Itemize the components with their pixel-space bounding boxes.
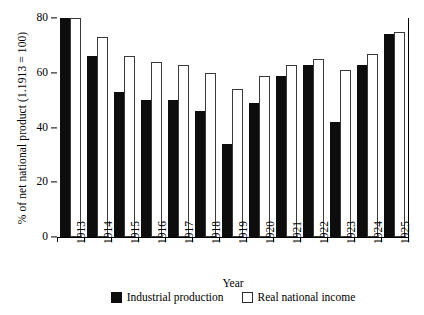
- y-axis-tick: [51, 17, 57, 18]
- bar-real-national-income: [367, 54, 378, 237]
- y-axis-tick: [51, 182, 57, 183]
- x-axis-tick-label: 1916: [157, 221, 169, 244]
- bar-real-national-income: [70, 18, 81, 237]
- bar-real-national-income: [286, 65, 297, 237]
- bar-group: [114, 18, 136, 237]
- x-axis-tick-label: 1913: [76, 221, 88, 244]
- bar-industrial-production: [141, 100, 152, 237]
- bar-industrial-production: [357, 65, 368, 237]
- bar-group: [357, 18, 379, 237]
- x-axis-title: Year: [57, 277, 409, 289]
- legend-swatch-outlined-square-icon: [242, 292, 253, 303]
- x-axis-tick-label: 1922: [319, 221, 331, 244]
- bar-group: [87, 18, 109, 237]
- legend-label: Industrial production: [127, 291, 224, 303]
- legend-label: Real national income: [258, 291, 356, 303]
- y-axis-tick-label: 40: [37, 122, 49, 134]
- bar-industrial-production: [276, 76, 287, 238]
- y-axis-tick-label: 0: [42, 231, 48, 243]
- bar-industrial-production: [222, 144, 233, 237]
- bar-industrial-production: [303, 65, 314, 237]
- bar-chart-figure: % of net national product (1.1913 = 100)…: [0, 0, 424, 315]
- bar-group: [330, 18, 352, 237]
- x-axis-tick: [57, 237, 58, 242]
- x-axis-tick-label: 1915: [130, 221, 142, 244]
- x-axis-tick-label: 1920: [265, 221, 277, 244]
- bar-group: [168, 18, 190, 237]
- bar-group: [249, 18, 271, 237]
- chart-legend: Industrial production Real national inco…: [57, 291, 409, 303]
- bar-real-national-income: [340, 70, 351, 237]
- bar-real-national-income: [151, 62, 162, 237]
- bar-industrial-production: [330, 122, 341, 237]
- bar-industrial-production: [249, 103, 260, 237]
- bar-group: [276, 18, 298, 237]
- legend-item-real-national-income: Real national income: [242, 291, 356, 303]
- bar-group: [222, 18, 244, 237]
- bar-industrial-production: [384, 34, 395, 237]
- x-axis-tick-label: 1925: [400, 221, 412, 244]
- bar-industrial-production: [195, 111, 206, 237]
- bar-group: [303, 18, 325, 237]
- bar-real-national-income: [97, 37, 108, 237]
- y-axis-title: % of net national product (1.1913 = 100): [16, 8, 28, 248]
- x-axis-tick-label: 1924: [373, 221, 385, 244]
- y-axis-tick: [51, 72, 57, 73]
- legend-swatch-filled-square-icon: [111, 292, 122, 303]
- plot-area: 020406080: [57, 18, 409, 238]
- x-axis-tick-label: 1917: [184, 221, 196, 244]
- y-axis-tick-label: 80: [37, 12, 49, 24]
- bar-group: [195, 18, 217, 237]
- bar-real-national-income: [178, 65, 189, 237]
- x-axis-tick-label: 1918: [211, 221, 223, 244]
- legend-item-industrial-production: Industrial production: [111, 291, 224, 303]
- y-axis-tick-label: 20: [37, 177, 49, 189]
- y-axis-tick: [51, 127, 57, 128]
- bar-group: [384, 18, 406, 237]
- bar-real-national-income: [259, 76, 270, 238]
- x-axis-tick-label: 1914: [103, 221, 115, 244]
- bar-real-national-income: [205, 73, 216, 237]
- bar-real-national-income: [394, 32, 405, 237]
- bar-group: [60, 18, 82, 237]
- bar-real-national-income: [124, 56, 135, 237]
- bar-group: [141, 18, 163, 237]
- bar-real-national-income: [232, 89, 243, 237]
- x-axis-tick-label: 1923: [346, 221, 358, 244]
- x-axis-tick-label: 1919: [238, 221, 250, 244]
- bar-industrial-production: [168, 100, 179, 237]
- bar-industrial-production: [114, 92, 125, 237]
- bar-real-national-income: [313, 59, 324, 237]
- y-axis-tick-label: 60: [37, 67, 49, 79]
- bar-industrial-production: [60, 18, 71, 237]
- x-axis-tick-label: 1921: [292, 221, 304, 244]
- bar-industrial-production: [87, 56, 98, 237]
